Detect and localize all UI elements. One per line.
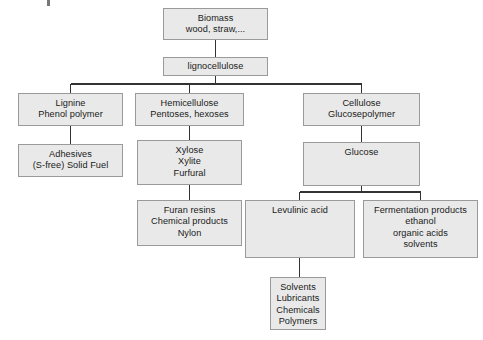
node-hemicellulose: Hemicellulose Pentoses, hexoses xyxy=(135,93,244,126)
node-cellulose: Cellulose Glucosepolymer xyxy=(303,93,420,126)
node-xylose: Xylose Xylite Furfural xyxy=(137,140,242,185)
node-adhesives: Adhesives (S-free) Solid Fuel xyxy=(18,144,123,177)
node-lignocellulose: lignocellulose xyxy=(163,57,268,76)
node-furan-resins: Furan resins Chemical products Nylon xyxy=(137,200,242,246)
node-biomass: Biomass wood, straw,... xyxy=(163,8,268,40)
node-fermentation-products: Fermentation products ethanol organic ac… xyxy=(363,200,478,258)
node-levulinic-acid: Levulinic acid xyxy=(245,200,355,258)
scan-artifact-speck xyxy=(47,0,50,6)
flowchart-diagram: Biomass wood, straw,... lignocellulose L… xyxy=(0,0,483,340)
node-glucose: Glucose xyxy=(303,142,420,186)
node-solvents: Solvents Lubricants Chemicals Polymers xyxy=(270,277,326,330)
node-lignine: Lignine Phenol polymer xyxy=(18,93,123,126)
